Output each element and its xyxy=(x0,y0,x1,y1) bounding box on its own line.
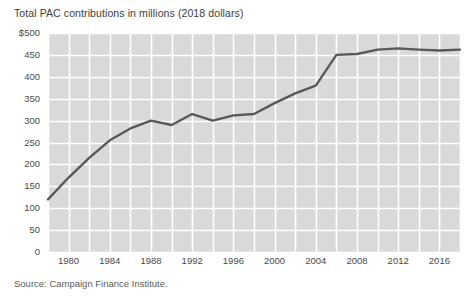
vertical-gridlines xyxy=(49,33,461,252)
x-axis-tick-label: 2008 xyxy=(346,256,367,266)
y-axis-tick-label: 150 xyxy=(24,182,40,192)
y-axis: $500450400350300250200150100500 xyxy=(0,33,44,252)
x-axis-tick-label: 1992 xyxy=(182,256,203,266)
x-axis-tick-label: 1984 xyxy=(99,256,120,266)
y-axis-tick-label: 100 xyxy=(24,203,40,213)
x-axis-tick-label: 2012 xyxy=(388,256,409,266)
x-axis-tick-label: 1996 xyxy=(223,256,244,266)
x-axis-tick-label: 1988 xyxy=(140,256,161,266)
y-axis-tick-label: 400 xyxy=(24,72,40,82)
y-axis-tick-label: 50 xyxy=(29,225,40,235)
y-axis-tick-label: 350 xyxy=(24,94,40,104)
plot-area-wrapper xyxy=(48,33,460,252)
x-axis-tick-label: 2000 xyxy=(264,256,285,266)
y-axis-tick-label: $500 xyxy=(19,28,40,38)
y-axis-tick-label: 450 xyxy=(24,50,40,60)
y-axis-tick-label: 0 xyxy=(35,247,40,257)
x-axis: 1980198419881992199620002004200820122016 xyxy=(48,256,460,270)
y-axis-tick-label: 200 xyxy=(24,160,40,170)
y-axis-tick-label: 300 xyxy=(24,116,40,126)
pac-contributions-line-chart: Total PAC contributions in millions (201… xyxy=(0,0,469,301)
x-axis-tick-label: 2004 xyxy=(305,256,326,266)
x-axis-tick-label: 2016 xyxy=(429,256,450,266)
chart-title: Total PAC contributions in millions (201… xyxy=(14,7,244,19)
plot-canvas xyxy=(48,33,460,252)
y-axis-tick-label: 250 xyxy=(24,138,40,148)
source-note: Source: Campaign Finance Institute. xyxy=(14,278,168,289)
x-axis-tick-label: 1980 xyxy=(58,256,79,266)
